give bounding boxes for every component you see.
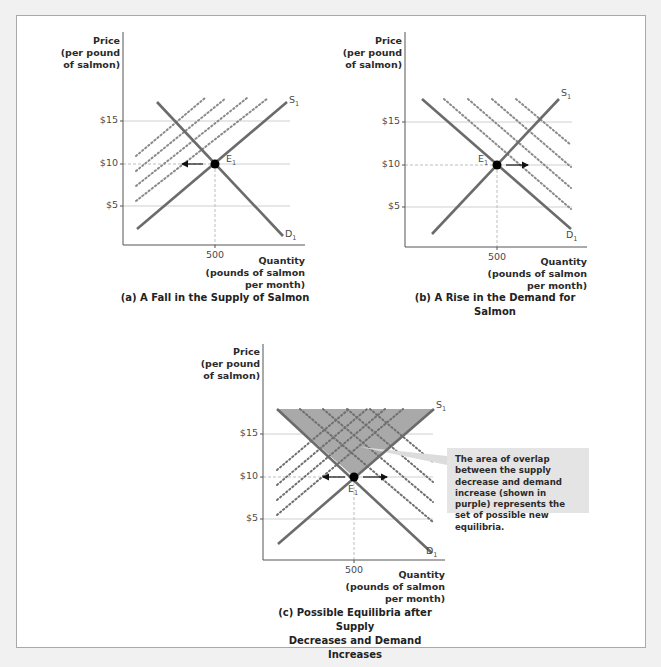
panel-c-s1-label: S1 [436, 399, 446, 413]
panel-c-ytick-15: $15 [228, 427, 258, 438]
panel-a-s1-label: S1 [289, 94, 299, 108]
panel-c-ytick-5: $5 [228, 512, 258, 523]
panel-c-e1-label: E1 [348, 483, 358, 497]
panel-a-d1-label: D1 [285, 228, 296, 242]
panel-c-ytick-10: $10 [228, 470, 258, 481]
panel-a-x-axis-label: Quantity (pounds of salmon per month) [205, 255, 305, 291]
panel-c-y-axis-label: Price (per pound of salmon) [190, 346, 260, 382]
panel-b-ytick-5: $5 [370, 200, 400, 211]
panel-b-ytick-10: $10 [370, 158, 400, 169]
equilibrium-point-e1 [211, 160, 220, 169]
panel-a-ytick-10: $10 [88, 157, 118, 168]
equilibrium-point-e1 [350, 473, 359, 482]
panel-a-y-axis-label: Price (per pound of salmon) [50, 35, 120, 71]
panel-c-caption: (c) Possible Equilibria after Supply Dec… [260, 606, 450, 662]
panel-b-caption: (b) A Rise in the Demand for Salmon [395, 291, 595, 319]
panel-a-ytick-15: $15 [88, 114, 118, 125]
panel-a-chart [120, 32, 305, 248]
panel-b-e1-label: E1 [478, 153, 488, 167]
panel-b-y-axis-label: Price (per pound of salmon) [332, 35, 402, 71]
panel-b-d1-label: D1 [566, 229, 577, 243]
panel-a-caption: (a) A Fall in the Supply of Salmon [120, 291, 310, 305]
panel-c-d1-label: D1 [426, 545, 437, 559]
panel-c-x-axis-label: Quantity (pounds of salmon per month) [345, 569, 445, 605]
panel-a-e1-label: E1 [226, 153, 236, 167]
panel-c-chart [260, 344, 447, 563]
panel-b-ytick-15: $15 [370, 115, 400, 126]
overlap-callout: The area of overlap between the supply d… [447, 448, 589, 513]
panel-b-chart [402, 32, 587, 250]
panel-a-ytick-5: $5 [88, 199, 118, 210]
equilibrium-point-e1 [493, 161, 502, 170]
panel-b-s1-label: S1 [561, 87, 571, 101]
panel-b-x-axis-label: Quantity (pounds of salmon per month) [487, 256, 587, 292]
